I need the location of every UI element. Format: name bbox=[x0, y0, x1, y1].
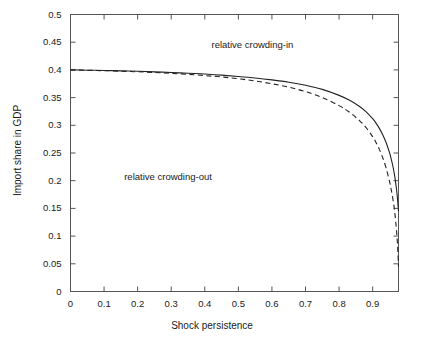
y-tick-label: 0.2 bbox=[0, 176, 62, 186]
y-axis-title: Import share in GDP bbox=[12, 71, 23, 231]
x-axis-title: Shock persistence bbox=[0, 320, 424, 331]
plot-canvas bbox=[0, 0, 424, 344]
y-tick-label: 0.05 bbox=[0, 259, 62, 269]
y-tick-label: 0.25 bbox=[0, 148, 62, 158]
x-tick-label: 0.9 bbox=[353, 299, 393, 309]
y-tick-label: 0.3 bbox=[0, 120, 62, 130]
annotation-relative-crowding-in: relative crowding-in bbox=[212, 39, 294, 50]
y-tick-label: 0.4 bbox=[0, 65, 62, 75]
y-tick-label: 0.5 bbox=[0, 10, 62, 20]
y-tick-label: 0.1 bbox=[0, 231, 62, 241]
figure-background bbox=[0, 0, 424, 344]
y-tick-label: 0 bbox=[0, 287, 62, 297]
y-tick-label: 0.35 bbox=[0, 93, 62, 103]
chart-figure: 00.050.10.150.20.250.30.350.40.450.5 00.… bbox=[0, 0, 424, 344]
y-tick-label: 0.15 bbox=[0, 203, 62, 213]
annotation-relative-crowding-out: relative crowding-out bbox=[124, 171, 212, 182]
y-tick-label: 0.45 bbox=[0, 37, 62, 47]
